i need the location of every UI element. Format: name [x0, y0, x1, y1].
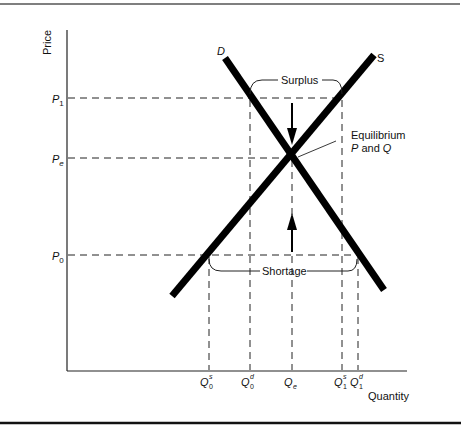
supply-curve: [172, 55, 374, 296]
q1s-tick-label: Q s 1: [334, 373, 347, 390]
p0-tick-label: P0: [52, 250, 64, 265]
shortage-label: Shortage: [262, 265, 307, 277]
y-axis-label: Price: [41, 30, 53, 55]
supply-demand-figure: Price Quantity D S Surplus Shortage Equi…: [0, 0, 464, 436]
qe-tick-label: Q e: [284, 376, 297, 390]
svg-text:Q: Q: [200, 376, 209, 388]
svg-text:Q: Q: [350, 376, 359, 388]
svg-text:s: s: [209, 373, 213, 380]
x-axis-label: Quantity: [368, 390, 409, 402]
q0d-tick-label: Q d 0: [241, 373, 255, 390]
svg-text:Q: Q: [334, 376, 343, 388]
demand-label: D: [217, 45, 225, 57]
svg-text:Q: Q: [284, 376, 293, 388]
equilibrium-label-line1: Equilibrium: [351, 129, 405, 141]
reference-lines: [68, 98, 358, 370]
pe-tick-label: Pe: [52, 153, 64, 168]
up-arrow-icon: [287, 213, 297, 252]
q0s-tick-label: Q s 0: [200, 373, 213, 390]
svg-text:1: 1: [359, 383, 363, 390]
svg-text:0: 0: [250, 383, 254, 390]
supply-label: S: [377, 52, 384, 64]
svg-text:0: 0: [209, 383, 213, 390]
svg-text:Q: Q: [241, 376, 250, 388]
svg-text:1: 1: [343, 383, 347, 390]
down-arrow-icon: [287, 103, 297, 145]
svg-text:d: d: [250, 373, 255, 380]
svg-text:d: d: [359, 373, 364, 380]
q1d-tick-label: Q d 1: [350, 373, 364, 390]
equilibrium-label-line2: P and Q: [351, 142, 392, 154]
svg-text:s: s: [343, 373, 347, 380]
surplus-label: Surplus: [281, 74, 319, 86]
svg-text:e: e: [293, 383, 297, 390]
p1-tick-label: P1: [52, 93, 64, 108]
